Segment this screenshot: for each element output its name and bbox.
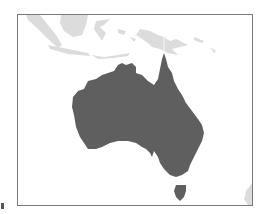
sulawesi	[94, 19, 110, 41]
borneo	[60, 15, 88, 37]
australia	[72, 53, 204, 201]
australia-mainland	[72, 53, 204, 177]
png-islands	[194, 37, 216, 53]
new-zealand	[244, 183, 252, 205]
lesser-sunda	[92, 53, 130, 59]
map-frame	[17, 14, 253, 206]
maluku	[118, 29, 136, 42]
locator-map	[18, 15, 252, 205]
edge-mark	[1, 203, 4, 209]
sumatra	[26, 15, 62, 48]
java	[48, 45, 90, 56]
tasmania	[174, 185, 186, 201]
new-guinea	[136, 29, 188, 55]
